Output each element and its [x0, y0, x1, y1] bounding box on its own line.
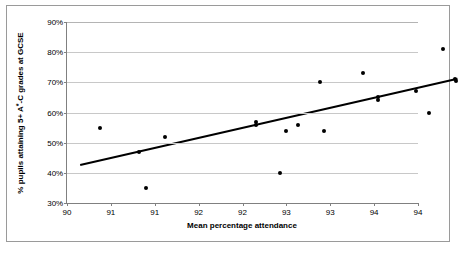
y-tick-mark [64, 143, 67, 144]
data-point [137, 150, 141, 154]
y-tick-mark [64, 22, 67, 23]
x-tick-mark [243, 203, 244, 206]
data-point [163, 135, 167, 139]
x-tick-label: 90 [63, 208, 72, 217]
y-tick-label: 40% [47, 168, 63, 177]
y-tick-label: 90% [47, 18, 63, 27]
y-tick-label: 60% [47, 108, 63, 117]
data-point [254, 123, 258, 127]
y-tick-mark [64, 173, 67, 174]
data-point [441, 47, 445, 51]
x-tick-label: 94 [370, 208, 379, 217]
y-tick-label: 70% [47, 78, 63, 87]
data-point [427, 111, 431, 115]
gridline-horizontal [67, 82, 418, 83]
y-tick-label: 50% [47, 138, 63, 147]
y-tick-label: 80% [47, 48, 63, 57]
x-tick-label: 91 [106, 208, 115, 217]
data-point [144, 186, 148, 190]
scatter-chart-figure: % pupils attaining 5+ A*-C grades at GCS… [0, 0, 458, 253]
x-tick-label: 94 [414, 208, 423, 217]
x-tick-mark [286, 203, 287, 206]
gridline-horizontal [67, 113, 418, 114]
data-point [98, 126, 102, 130]
x-tick-label: 92 [238, 208, 247, 217]
data-point [361, 71, 365, 75]
plot-area: 30%40%50%60%70%80%90%909191929293939494 [66, 22, 418, 204]
x-tick-mark [374, 203, 375, 206]
gridline-horizontal [67, 22, 418, 23]
data-point [322, 129, 326, 133]
gridline-horizontal [67, 143, 418, 144]
x-axis-title: Mean percentage attendance [66, 221, 418, 230]
x-tick-label: 93 [326, 208, 335, 217]
y-tick-label: 30% [47, 199, 63, 208]
x-tick-mark [418, 203, 419, 206]
x-tick-mark [155, 203, 156, 206]
gridline-horizontal [67, 173, 418, 174]
x-tick-label: 93 [282, 208, 291, 217]
data-point [454, 79, 458, 83]
gridline-horizontal [67, 52, 418, 53]
x-tick-mark [67, 203, 68, 206]
x-tick-label: 92 [194, 208, 203, 217]
x-tick-label: 91 [150, 208, 159, 217]
y-axis-title: % pupils attaining 5+ A*-C grades at GCS… [14, 22, 28, 204]
x-tick-mark [111, 203, 112, 206]
y-tick-mark [64, 52, 67, 53]
y-tick-mark [64, 82, 67, 83]
x-tick-mark [330, 203, 331, 206]
data-point [296, 123, 300, 127]
x-tick-mark [199, 203, 200, 206]
y-tick-mark [64, 113, 67, 114]
